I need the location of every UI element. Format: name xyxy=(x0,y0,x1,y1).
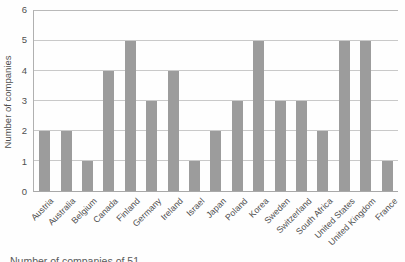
bar-japan xyxy=(210,131,221,191)
bar-sweden xyxy=(275,101,286,191)
bar-france xyxy=(382,161,393,191)
x-label-france: France xyxy=(373,196,399,222)
bar-australia xyxy=(61,131,72,191)
bar-chart-figure: Number of companies 0123456 AustriaAustr… xyxy=(0,0,405,262)
bar-switzerland xyxy=(296,101,307,191)
bar-united-kingdom xyxy=(360,41,371,191)
y-tick-label-4: 4 xyxy=(7,66,27,76)
bar-slot-united-kingdom xyxy=(355,11,376,191)
bar-slot-ireland xyxy=(162,11,183,191)
bar-slot-australia xyxy=(55,11,76,191)
plot-area xyxy=(33,10,398,192)
y-tick-label-1: 1 xyxy=(7,157,27,167)
x-label-israel: Israel xyxy=(184,196,206,218)
bar-ireland xyxy=(168,71,179,191)
bar-slot-canada xyxy=(98,11,119,191)
bar-slot-belgium xyxy=(77,11,98,191)
y-tick-label-5: 5 xyxy=(7,35,27,45)
bar-slot-israel xyxy=(184,11,205,191)
bar-slot-austria xyxy=(34,11,55,191)
bar-united-states xyxy=(339,41,350,191)
y-tick-label-0: 0 xyxy=(7,187,27,197)
bar-slot-japan xyxy=(205,11,226,191)
bar-austria xyxy=(39,131,50,191)
bar-slot-poland xyxy=(227,11,248,191)
bar-slot-switzerland xyxy=(291,11,312,191)
y-tick-label-2: 2 xyxy=(7,126,27,136)
bar-poland xyxy=(232,101,243,191)
y-tick-label-3: 3 xyxy=(7,96,27,106)
bar-germany xyxy=(146,101,157,191)
bar-israel xyxy=(189,161,200,191)
bar-slot-france xyxy=(377,11,398,191)
bar-south-africa xyxy=(317,131,328,191)
x-label-ireland: Ireland xyxy=(159,196,185,222)
bar-slot-finland xyxy=(120,11,141,191)
y-tick-label-6: 6 xyxy=(7,5,27,15)
x-label-poland: Poland xyxy=(223,196,249,222)
bar-slot-korea xyxy=(248,11,269,191)
bar-slot-germany xyxy=(141,11,162,191)
bar-slot-united-states xyxy=(334,11,355,191)
bar-canada xyxy=(103,71,114,191)
bar-slot-sweden xyxy=(269,11,290,191)
bar-series xyxy=(34,11,398,191)
bar-belgium xyxy=(82,161,93,191)
bar-finland xyxy=(125,41,136,191)
bar-korea xyxy=(253,41,264,191)
bar-slot-south-africa xyxy=(312,11,333,191)
figure-caption: Number of companies of 51 xyxy=(10,255,139,262)
